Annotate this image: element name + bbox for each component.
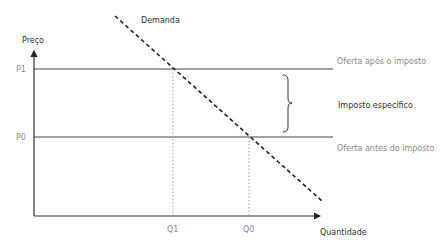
tax-brace-icon bbox=[283, 75, 292, 132]
p0-label: P0 bbox=[16, 133, 26, 142]
q0-label: Q0 bbox=[243, 225, 254, 234]
tax-annotation-label: Imposto específico bbox=[338, 101, 413, 110]
demand-line bbox=[115, 16, 322, 201]
p1-label: P1 bbox=[16, 65, 26, 74]
supply-before-tax-label: Oferta antes do imposto bbox=[337, 144, 434, 153]
x-axis-label: Quantidade bbox=[320, 228, 367, 237]
supply-after-tax-label: Oferta após o imposto bbox=[337, 56, 426, 66]
y-axis-label: Preço bbox=[22, 36, 44, 45]
demand-label: Demanda bbox=[141, 16, 180, 25]
q1-label: Q1 bbox=[167, 225, 178, 234]
tax-diagram: Preço Quantidade P1 P0 Q1 Q0 Demanda Ofe… bbox=[0, 0, 444, 248]
